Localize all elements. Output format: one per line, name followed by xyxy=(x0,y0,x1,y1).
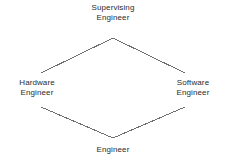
edge-supervising-hardware xyxy=(41,38,113,73)
edge-supervising-software xyxy=(113,38,185,73)
edge-hardware-engineer xyxy=(41,107,113,138)
diagram-canvas: Supervising Engineer Hardware Engineer S… xyxy=(0,0,226,163)
node-label-software-engineer: Software Engineer xyxy=(158,78,226,97)
edge-software-engineer xyxy=(113,107,185,138)
node-label-hardware-engineer: Hardware Engineer xyxy=(2,78,72,97)
node-label-engineer: Engineer xyxy=(68,145,158,155)
node-label-supervising-engineer: Supervising Engineer xyxy=(63,3,163,22)
